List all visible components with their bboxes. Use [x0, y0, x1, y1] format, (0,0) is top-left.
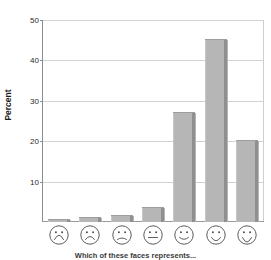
y-tick-label: 50 — [17, 16, 39, 25]
slightly-happy-face-icon — [173, 224, 195, 246]
bar — [111, 216, 133, 222]
bar-top-edge — [79, 217, 101, 218]
bar-top-edge — [111, 215, 133, 216]
happy-face-icon — [205, 224, 227, 246]
bar-edge-shadow — [192, 113, 195, 222]
x-axis-face-labels — [43, 224, 263, 248]
sad-face-icon — [79, 224, 101, 246]
y-tick-label: 20 — [17, 137, 39, 146]
bar-edge-shadow — [161, 208, 164, 222]
bar-top-edge — [236, 140, 258, 141]
bar — [205, 40, 227, 222]
bar-top-edge — [173, 112, 195, 113]
y-tick-label: 10 — [17, 177, 39, 186]
bar — [236, 141, 258, 222]
bar-top-edge — [205, 39, 227, 40]
y-tick-label: 30 — [17, 96, 39, 105]
bar-edge-shadow — [255, 141, 258, 222]
bar-edge-shadow — [98, 218, 101, 222]
y-axis-title: Percent — [3, 75, 13, 135]
bar — [142, 208, 164, 222]
slightly-sad-face-icon — [111, 224, 133, 246]
bar-top-edge — [48, 219, 70, 220]
very-happy-face-icon — [236, 224, 258, 246]
bar-chart: Percent 1020304050 Which of these faces … — [0, 0, 271, 260]
bar-edge-shadow — [67, 220, 70, 222]
bar-edge-shadow — [130, 216, 133, 222]
bar-edge-shadow — [224, 40, 227, 222]
bar-top-edge — [142, 207, 164, 208]
bar — [173, 113, 195, 222]
y-tick-label: 40 — [17, 56, 39, 65]
bar-series — [43, 20, 263, 222]
bar — [48, 220, 70, 222]
very-sad-face-icon — [48, 224, 70, 246]
bar — [79, 218, 101, 222]
x-axis-title: Which of these faces represents... — [0, 251, 271, 260]
neutral-face-icon — [142, 224, 164, 246]
